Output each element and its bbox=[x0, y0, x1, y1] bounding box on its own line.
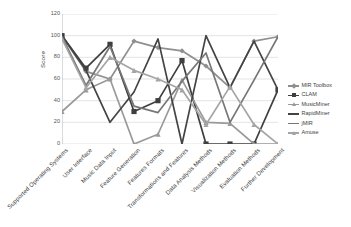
y-axis-tick: 120 bbox=[38, 11, 60, 17]
series-rapidminer bbox=[62, 36, 278, 144]
x-axis-tick: Evaluation Methods bbox=[116, 147, 262, 227]
data-point-marker bbox=[203, 141, 208, 144]
legend-swatch-icon bbox=[288, 130, 299, 135]
legend-label: MusicMiner bbox=[302, 102, 330, 108]
y-axis-tick: 100 bbox=[38, 33, 60, 39]
legend-label: CLAM bbox=[302, 92, 317, 98]
y-axis-tick-labels: 020406080100120 bbox=[36, 0, 60, 227]
x-axis-tick: Transformations and Features bbox=[44, 147, 190, 227]
legend-item[interactable]: Amuse bbox=[288, 128, 350, 137]
legend-swatch-icon bbox=[288, 83, 299, 88]
y-axis-tick: 40 bbox=[38, 98, 60, 104]
legend-swatch-icon bbox=[288, 121, 299, 126]
chart-legend: MIR ToolboxCLAMMusicMinerRapidMinerjMIRA… bbox=[288, 81, 350, 137]
legend-label: RapidMiner bbox=[302, 111, 330, 117]
legend-label: Amuse bbox=[302, 130, 319, 136]
y-axis-tick: 80 bbox=[38, 54, 60, 60]
legend-label: jMIR bbox=[302, 121, 313, 127]
legend-swatch-icon bbox=[288, 102, 299, 107]
line-chart: Score 020406080100120 Supported Operatin… bbox=[0, 0, 351, 227]
legend-swatch-icon bbox=[288, 93, 299, 98]
x-axis-tick: Feature Generation bbox=[0, 147, 141, 227]
y-axis-tick: 0 bbox=[38, 141, 60, 147]
y-axis-tick: 20 bbox=[38, 119, 60, 125]
y-axis-tick: 60 bbox=[38, 76, 60, 82]
data-point-marker bbox=[155, 98, 160, 103]
data-point-marker bbox=[131, 109, 136, 114]
data-point-marker bbox=[227, 141, 232, 144]
data-point-marker bbox=[179, 58, 184, 63]
legend-swatch-icon bbox=[288, 111, 299, 116]
x-axis-tick: Further Development bbox=[140, 147, 286, 227]
plot-area bbox=[62, 14, 278, 144]
x-axis-tick: Data Analysis Methods bbox=[68, 147, 214, 227]
legend-item[interactable]: MusicMiner bbox=[288, 100, 350, 109]
x-axis-tick: Visualization Methods bbox=[92, 147, 238, 227]
legend-item[interactable]: jMIR bbox=[288, 119, 350, 128]
legend-label: MIR Toolbox bbox=[302, 83, 332, 89]
legend-item[interactable]: MIR Toolbox bbox=[288, 81, 350, 90]
legend-item[interactable]: RapidMiner bbox=[288, 109, 350, 118]
series-line bbox=[62, 36, 278, 144]
legend-item[interactable]: CLAM bbox=[288, 90, 350, 99]
